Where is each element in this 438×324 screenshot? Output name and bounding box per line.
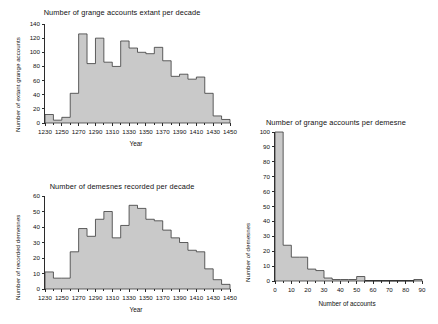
y-tick	[272, 221, 275, 222]
x-tick-minor	[348, 281, 349, 283]
x-tick-minor	[364, 281, 365, 283]
x-tick	[95, 123, 96, 126]
x-tick-minor	[171, 123, 172, 125]
x-tick-minor	[283, 281, 284, 283]
y-tick-label: 20	[19, 105, 40, 112]
x-tick-minor	[103, 123, 104, 125]
histogram-bars	[45, 24, 232, 125]
x-tick-minor	[154, 123, 155, 125]
chart-panel-demesnes-recorded-per-decade: Number of demesnes recorded per decade N…	[8, 182, 236, 322]
y-tick	[42, 258, 45, 259]
x-tick-minor	[221, 123, 222, 125]
x-tick	[78, 289, 79, 292]
y-tick-label: 30	[19, 239, 40, 246]
x-tick	[162, 123, 163, 126]
x-tick	[230, 123, 231, 126]
x-tick-minor	[137, 289, 138, 291]
x-tick-minor	[299, 281, 300, 283]
plot-area: 0102030405060123012501270129013101330135…	[44, 196, 229, 289]
bar-series	[45, 34, 230, 123]
x-tick-minor	[87, 289, 88, 291]
x-tick	[275, 281, 276, 284]
y-tick	[272, 146, 275, 147]
x-tick	[196, 289, 197, 292]
x-tick	[373, 281, 374, 284]
x-tick-minor	[120, 123, 121, 125]
x-tick	[340, 281, 341, 284]
y-tick-label: 0	[19, 285, 40, 292]
x-tick	[129, 123, 130, 126]
y-tick-label: 10	[19, 270, 40, 277]
y-tick	[272, 132, 275, 133]
x-tick-minor	[381, 281, 382, 283]
x-tick	[324, 281, 325, 284]
y-tick-label: 60	[19, 192, 40, 199]
x-tick	[307, 281, 308, 284]
x-tick-minor	[397, 281, 398, 283]
x-tick	[230, 289, 231, 292]
chart-title: Number of grange accounts extant per dec…	[8, 8, 236, 17]
x-tick-minor	[204, 123, 205, 125]
y-tick	[272, 191, 275, 192]
x-tick	[405, 281, 406, 284]
x-axis-title: Year	[44, 140, 228, 147]
y-tick-label: 40	[19, 91, 40, 98]
x-tick-minor	[53, 289, 54, 291]
y-tick-label: 120	[19, 34, 40, 41]
chart-panel-grange-accounts-per-decade: Number of grange accounts extant per dec…	[8, 8, 236, 158]
x-tick	[356, 281, 357, 284]
x-tick-minor	[87, 123, 88, 125]
x-tick	[213, 289, 214, 292]
y-tick-label: 100	[249, 128, 270, 135]
x-tick-label: 90	[410, 286, 434, 293]
y-tick-label: 40	[19, 223, 40, 230]
x-tick-minor	[70, 289, 71, 291]
bar-series	[275, 132, 422, 281]
x-tick	[145, 123, 146, 126]
x-tick	[61, 123, 62, 126]
x-tick	[213, 123, 214, 126]
y-tick-label: 0	[19, 119, 40, 126]
chart-title: Number of demesnes recorded per decade	[8, 182, 236, 191]
x-tick-minor	[187, 289, 188, 291]
x-tick	[112, 123, 113, 126]
y-tick-label: 20	[249, 247, 270, 254]
y-tick-label: 90	[249, 143, 270, 150]
x-tick-minor	[315, 281, 316, 283]
x-tick-minor	[53, 123, 54, 125]
y-tick	[42, 196, 45, 197]
x-tick	[179, 289, 180, 292]
y-tick	[272, 236, 275, 237]
x-tick-minor	[103, 289, 104, 291]
plot-area: 0102030405060708090100010203040506070809…	[274, 132, 421, 281]
y-tick	[42, 227, 45, 228]
x-tick	[291, 281, 292, 284]
x-tick-minor	[171, 289, 172, 291]
y-tick	[42, 24, 45, 25]
x-tick	[61, 289, 62, 292]
x-tick	[129, 289, 130, 292]
y-tick	[272, 176, 275, 177]
x-tick	[162, 289, 163, 292]
x-tick	[45, 123, 46, 126]
y-tick	[42, 52, 45, 53]
y-tick	[42, 242, 45, 243]
x-tick	[179, 123, 180, 126]
x-tick	[422, 281, 423, 284]
y-tick	[42, 66, 45, 67]
x-tick-minor	[413, 281, 414, 283]
y-tick-label: 70	[249, 173, 270, 180]
y-tick-label: 20	[19, 254, 40, 261]
y-tick-label: 80	[19, 62, 40, 69]
y-tick	[42, 273, 45, 274]
x-axis-title: Year	[44, 306, 228, 313]
y-tick-label: 10	[249, 262, 270, 269]
x-tick-minor	[221, 289, 222, 291]
x-tick	[78, 123, 79, 126]
x-tick-minor	[187, 123, 188, 125]
plot-area: 0204060801001201401230125012701290131013…	[44, 24, 229, 123]
y-tick	[272, 161, 275, 162]
y-tick-label: 140	[19, 20, 40, 27]
y-tick-label: 40	[249, 217, 270, 224]
x-tick-minor	[154, 289, 155, 291]
